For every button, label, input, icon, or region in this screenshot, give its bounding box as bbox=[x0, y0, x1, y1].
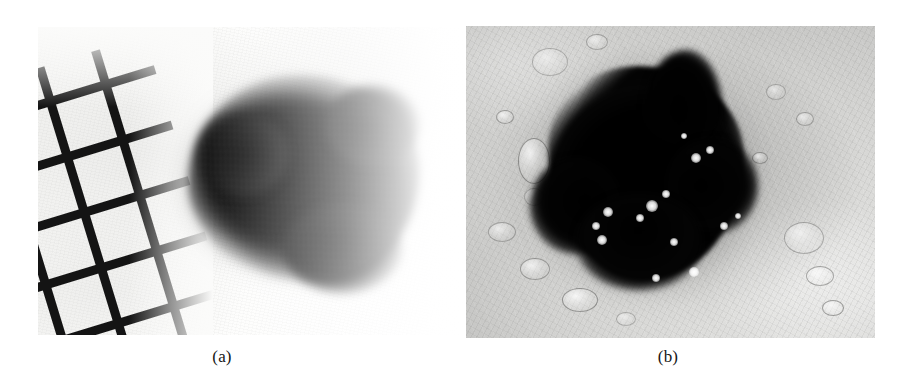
panel-a-right-white-fade bbox=[38, 27, 465, 335]
caption-panel-a: (a) bbox=[182, 347, 262, 367]
figure-container: (a) (b) bbox=[0, 0, 905, 391]
caption-panel-b: (b) bbox=[628, 347, 708, 367]
figure-panel-a bbox=[38, 27, 465, 335]
figure-panel-b bbox=[466, 26, 875, 338]
panel-b-vignette bbox=[466, 26, 875, 338]
